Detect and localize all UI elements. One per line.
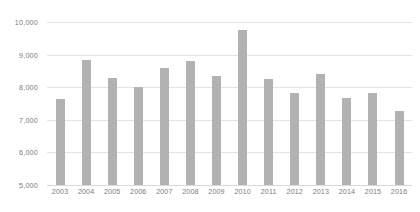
x-axis-label-2009: 2009 <box>203 188 229 206</box>
bar-slot <box>360 22 386 185</box>
gridline-5000-baseline <box>47 185 412 186</box>
bar-slot <box>151 22 177 185</box>
bar-2004[interactable] <box>82 60 91 185</box>
bar-2016[interactable] <box>395 111 404 185</box>
bar-2015[interactable] <box>368 93 377 185</box>
x-axis-label-2003: 2003 <box>47 188 73 206</box>
y-axis-label-9000: 9,000 <box>0 52 38 59</box>
bar-2014[interactable] <box>342 98 351 185</box>
x-axis-label-2012: 2012 <box>282 188 308 206</box>
bar-slot <box>203 22 229 185</box>
bar-2009[interactable] <box>212 76 221 185</box>
bar-2011[interactable] <box>264 79 273 185</box>
bar-2007[interactable] <box>160 68 169 185</box>
bar-slot <box>386 22 412 185</box>
bar-series <box>47 22 412 185</box>
y-axis-label-7000: 7,000 <box>0 117 38 124</box>
bar-slot <box>282 22 308 185</box>
x-axis-label-2008: 2008 <box>177 188 203 206</box>
bar-2006[interactable] <box>134 87 143 185</box>
bar-slot <box>256 22 282 185</box>
bar-2013[interactable] <box>316 74 325 185</box>
y-axis-label-6000: 6,000 <box>0 149 38 156</box>
x-axis-label-2013: 2013 <box>308 188 334 206</box>
x-axis: 2003200420052006200720082009201020112012… <box>47 188 412 206</box>
bar-2010[interactable] <box>238 30 247 185</box>
bar-slot <box>73 22 99 185</box>
y-axis-label-8000: 8,000 <box>0 84 38 91</box>
x-axis-label-2010: 2010 <box>230 188 256 206</box>
bar-slot <box>99 22 125 185</box>
x-axis-label-2004: 2004 <box>73 188 99 206</box>
y-axis-label-10000: 10,000 <box>0 19 38 26</box>
bar-slot <box>125 22 151 185</box>
x-axis-label-2007: 2007 <box>151 188 177 206</box>
x-axis-label-2014: 2014 <box>334 188 360 206</box>
bar-2012[interactable] <box>290 93 299 185</box>
x-axis-label-2005: 2005 <box>99 188 125 206</box>
x-axis-label-2015: 2015 <box>360 188 386 206</box>
bar-2008[interactable] <box>186 61 195 185</box>
bar-slot <box>47 22 73 185</box>
bar-2005[interactable] <box>108 78 117 185</box>
bar-slot <box>230 22 256 185</box>
y-axis-label-5000: 5,000 <box>0 182 38 189</box>
x-axis-label-2016: 2016 <box>386 188 412 206</box>
x-axis-label-2011: 2011 <box>256 188 282 206</box>
x-axis-label-2006: 2006 <box>125 188 151 206</box>
bar-chart: 10,000 9,000 8,000 7,000 6,000 5,000 200… <box>0 0 420 212</box>
bar-2003[interactable] <box>56 99 65 185</box>
bar-slot <box>177 22 203 185</box>
bar-slot <box>334 22 360 185</box>
bar-slot <box>308 22 334 185</box>
